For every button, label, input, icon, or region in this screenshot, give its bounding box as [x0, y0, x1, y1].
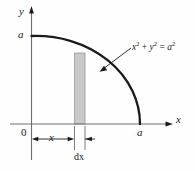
equation-equals-operator: = — [157, 42, 167, 52]
x-dimension-arrowhead-right — [68, 137, 75, 142]
x-axis-label: x — [176, 114, 181, 125]
dx-dimension-arrowhead — [85, 137, 92, 142]
x-intercept-label: a — [137, 127, 143, 138]
element-width-label: dx — [74, 152, 84, 162]
x-dimension-arrowhead-left — [32, 137, 39, 142]
equation-exponent-3: 2 — [172, 40, 175, 47]
area-element-strip — [75, 53, 86, 124]
figure-canvas — [0, 0, 195, 171]
width-dimension-label: x — [49, 132, 54, 143]
x-axis-arrowhead — [166, 122, 174, 127]
curve-equation-label: x2 + y2 = a2 — [132, 43, 175, 53]
y-axis-label: y — [19, 6, 24, 17]
y-axis-arrowhead — [29, 6, 34, 14]
circle-arc-curve — [32, 36, 141, 124]
origin-label: 0 — [21, 127, 27, 138]
figure-container: y a 0 a x x dx x2 + y2 = a2 — [0, 0, 195, 171]
equation-plus-operator: + — [139, 42, 149, 52]
y-intercept-label: a — [18, 29, 24, 40]
